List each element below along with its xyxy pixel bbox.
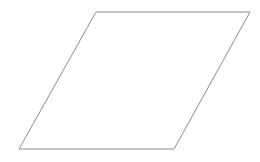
parallelogram-shape: [19, 12, 250, 149]
diagram-canvas: [0, 0, 260, 162]
parallelogram-drawing: [0, 0, 260, 162]
